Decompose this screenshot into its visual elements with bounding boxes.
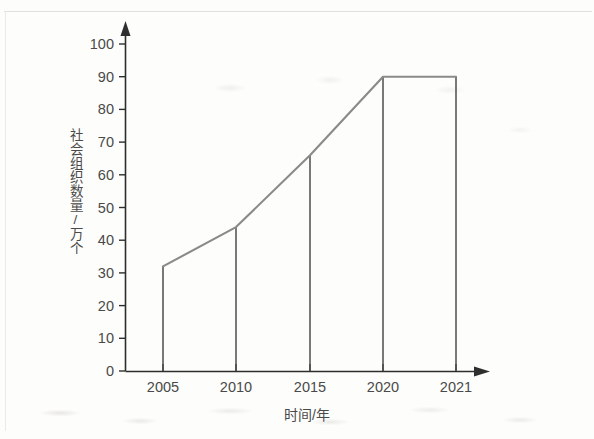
y-tick-label-20: 20 xyxy=(84,298,114,314)
x-axis-arrow-icon xyxy=(474,367,490,377)
y-tick-label-30: 30 xyxy=(84,265,114,281)
x-tick-label-2021: 2021 xyxy=(440,379,472,395)
y-tick-label-90: 90 xyxy=(84,69,114,85)
chart-page: 0 10 20 30 40 50 60 70 80 90 100 2005 20… xyxy=(0,0,594,439)
y-tick-label-0: 0 xyxy=(84,363,114,379)
x-tick-label-2020: 2020 xyxy=(367,379,399,395)
y-tick-label-10: 10 xyxy=(84,330,114,346)
y-tick-label-40: 40 xyxy=(84,232,114,248)
x-tick-label-2010: 2010 xyxy=(220,379,252,395)
y-tick-label-60: 60 xyxy=(84,167,114,183)
y-tick-label-80: 80 xyxy=(84,101,114,117)
y-axis-arrow-icon xyxy=(121,21,131,36)
x-axis-title: 时间/年 xyxy=(247,404,367,424)
y-tick-label-50: 50 xyxy=(84,200,114,216)
x-tick-label-2005: 2005 xyxy=(147,379,179,395)
data-drop-lines xyxy=(163,77,456,371)
x-tick-label-2015: 2015 xyxy=(294,379,326,395)
y-axis-title: 社会组织数量/万个 xyxy=(60,128,82,255)
y-tick-label-70: 70 xyxy=(84,134,114,150)
y-axis-ticks xyxy=(119,44,126,371)
y-tick-label-100: 100 xyxy=(78,36,114,52)
